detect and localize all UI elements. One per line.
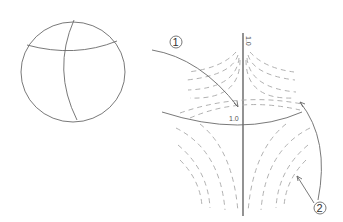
axis-label-mid: 1.0 <box>229 115 239 122</box>
callout-2: 2 <box>297 102 326 214</box>
diagram-canvas: 1.0 1.0 1 2 <box>0 0 343 222</box>
svg-text:2: 2 <box>317 202 323 214</box>
callout-1: 1 <box>152 36 238 107</box>
upper-dashed-curves <box>180 52 302 118</box>
svg-text:1: 1 <box>173 36 179 48</box>
axis-label-top: 1.0 <box>245 36 252 46</box>
diagram-svg: 1.0 1.0 1 2 <box>0 0 343 222</box>
sphere <box>21 20 125 122</box>
